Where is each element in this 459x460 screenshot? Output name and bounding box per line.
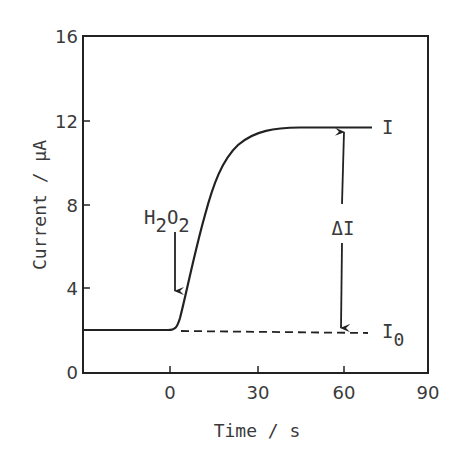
y-axis-ticks	[83, 121, 90, 288]
x-axis-label: Time / s	[214, 420, 301, 441]
y-tick-0: 0	[67, 362, 78, 383]
current-curve	[83, 128, 372, 331]
baseline-dashed	[181, 331, 368, 333]
y-tick-12: 12	[55, 111, 78, 132]
delta-i-arrow-down	[341, 243, 342, 328]
plot-frame	[83, 36, 428, 373]
y-tick-8: 8	[67, 195, 78, 216]
chart: 16 12 8 4 0 0 30 60 90 Time / s Current …	[0, 0, 459, 460]
y-tick-4: 4	[67, 278, 78, 299]
delta-i-label: ΔI	[332, 217, 355, 239]
y-axis-label: Current / μA	[29, 140, 50, 270]
x-tick-0: 0	[164, 382, 175, 403]
i0-label: I0	[382, 320, 404, 350]
h2o2-label: H2O2	[144, 206, 190, 236]
x-tick-30: 30	[247, 382, 270, 403]
delta-i-arrow-up	[342, 132, 344, 204]
i-label: I	[382, 116, 393, 138]
y-tick-16: 16	[55, 26, 78, 47]
x-axis-ticks	[170, 366, 344, 373]
x-tick-90: 90	[417, 382, 440, 403]
x-tick-60: 60	[333, 382, 356, 403]
